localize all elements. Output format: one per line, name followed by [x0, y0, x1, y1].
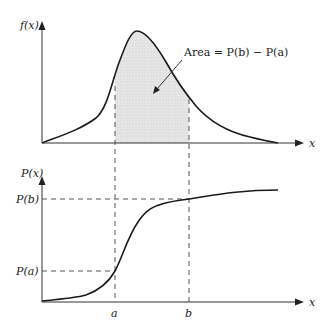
tick-b: b	[185, 307, 192, 320]
pdf-panel: f(x) x Area = P(b) − P(a)	[19, 19, 316, 150]
cdf-panel: P(x) x P(b) P(a) a b	[15, 167, 316, 320]
cdf-x-axis-arrow-icon	[295, 299, 304, 306]
tick-pa: P(a)	[15, 265, 39, 278]
cdf-curve	[42, 190, 278, 301]
pdf-cdf-diagram: f(x) x Area = P(b) − P(a) P(x) x P(b) P(…	[0, 0, 330, 333]
tick-a: a	[111, 307, 118, 320]
area-annotation: Area = P(b) − P(a)	[183, 46, 288, 59]
tick-pb: P(b)	[15, 193, 39, 206]
pdf-x-label: x	[309, 137, 316, 150]
pdf-y-label: f(x)	[19, 19, 39, 32]
pdf-y-axis-arrow-icon	[39, 21, 46, 30]
cdf-y-label: P(x)	[20, 167, 43, 180]
pdf-x-axis-arrow-icon	[295, 140, 304, 147]
cdf-x-label: x	[309, 296, 316, 309]
